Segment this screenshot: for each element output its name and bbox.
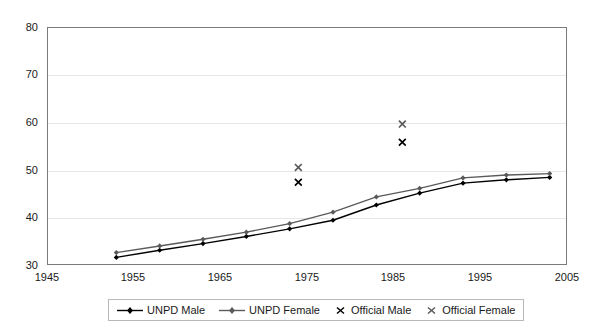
- data-point-marker: [399, 139, 406, 146]
- data-point-marker: [417, 191, 422, 196]
- legend-label: Official Female: [442, 305, 515, 316]
- series-line: [116, 177, 549, 257]
- y-tick-label: 70: [0, 69, 38, 80]
- y-tick-label: 30: [0, 260, 38, 271]
- data-point-marker: [504, 177, 509, 182]
- data-point-marker: [547, 171, 552, 176]
- chart-container: 80 70 60 50 40 30 1945 1955 1965 1975 19…: [0, 0, 606, 328]
- legend-label: Official Male: [351, 305, 411, 316]
- series-layer: [47, 27, 567, 265]
- y-tick-label: 50: [0, 165, 38, 176]
- x-marker-icon: [425, 305, 438, 316]
- data-point-marker: [417, 186, 422, 191]
- chart-legend: UNPD Male UNPD Female Official Male Offi…: [108, 299, 524, 321]
- x-tick-label: 1945: [27, 272, 67, 283]
- x-tick-label: 2005: [547, 272, 587, 283]
- y-tick-label: 60: [0, 117, 38, 128]
- x-axis: 1945 1955 1965 1975 1985 1995 2005: [0, 272, 606, 288]
- data-point-marker: [244, 230, 249, 235]
- data-point-marker: [114, 255, 119, 260]
- data-point-marker: [200, 237, 205, 242]
- data-point-marker: [287, 221, 292, 226]
- legend-label: UNPD Male: [147, 305, 205, 316]
- data-point-marker: [460, 175, 465, 180]
- data-point-marker: [114, 250, 119, 255]
- x-tick-label: 1955: [113, 272, 153, 283]
- legend-entry-official-female: Official Female: [425, 305, 515, 316]
- data-point-marker: [399, 121, 406, 128]
- data-point-marker: [295, 179, 302, 186]
- y-tick-label: 40: [0, 212, 38, 223]
- line-diamond-icon: [117, 305, 143, 316]
- data-point-marker: [330, 210, 335, 215]
- data-point-marker: [504, 172, 509, 177]
- data-point-marker: [157, 243, 162, 248]
- y-tick-label: 80: [0, 22, 38, 33]
- data-point-marker: [460, 181, 465, 186]
- data-point-marker: [374, 194, 379, 199]
- series-unpd-female: [114, 171, 553, 255]
- line-diamond-icon: [219, 305, 245, 316]
- x-tick-label: 1995: [460, 272, 500, 283]
- data-point-marker: [295, 164, 302, 171]
- x-tick-label: 1975: [287, 272, 327, 283]
- series-official-female: [295, 121, 406, 171]
- x-tick-label: 1965: [200, 272, 240, 283]
- data-point-marker: [287, 226, 292, 231]
- legend-entry-unpd-female: UNPD Female: [219, 305, 320, 316]
- legend-entry-official-male: Official Male: [334, 305, 411, 316]
- x-marker-icon: [334, 305, 347, 316]
- legend-entry-unpd-male: UNPD Male: [117, 305, 205, 316]
- series-official-male: [295, 139, 406, 186]
- x-tick-label: 1985: [373, 272, 413, 283]
- series-unpd-male: [114, 175, 553, 260]
- data-point-marker: [374, 202, 379, 207]
- legend-label: UNPD Female: [249, 305, 320, 316]
- data-point-marker: [330, 218, 335, 223]
